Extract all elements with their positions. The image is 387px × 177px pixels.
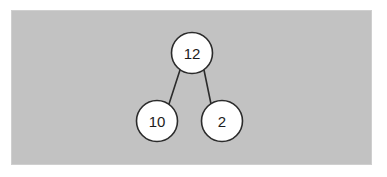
edge-root-to-left-child [169, 70, 180, 104]
tree-node-left-child[interactable]: 10 [137, 101, 178, 142]
tree-node-root[interactable]: 12 [172, 33, 213, 74]
tree-edges [169, 70, 211, 104]
node-label-root: 12 [184, 45, 201, 62]
tree-node-right-child[interactable]: 2 [202, 101, 243, 142]
node-label-right-child: 2 [218, 113, 226, 130]
binary-tree-graphic: 12 10 2 [0, 0, 387, 177]
edge-root-to-right-child [204, 70, 211, 104]
diagram-canvas: 12 10 2 [0, 0, 387, 177]
node-label-left-child: 10 [149, 113, 166, 130]
